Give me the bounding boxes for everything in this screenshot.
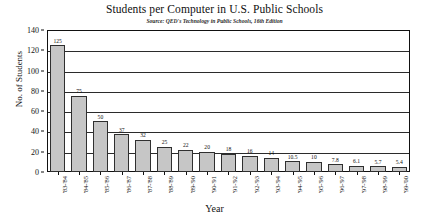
x-axis-tick-label: '85-'86: [103, 176, 110, 193]
x-axis-tick-slot: '91-'92: [218, 172, 239, 202]
gridline: [48, 72, 409, 73]
x-axis-tick-slot: '85-'86: [90, 172, 111, 202]
gridline: [48, 132, 409, 133]
x-axis-tick-slot: '90-'91: [196, 172, 217, 202]
y-axis-tick-label: 40: [31, 127, 39, 136]
x-axis-tick-label: '89-'90: [189, 176, 196, 193]
x-axis-tick-mark: [293, 172, 294, 175]
y-axis-tick-label: 60: [31, 107, 39, 116]
x-axis-tick-slot: '92-'93: [239, 172, 260, 202]
x-axis-tick-mark: [357, 172, 358, 175]
x-axis-tick-mark: [228, 172, 229, 175]
x-axis-tick-slot: '83-'84: [47, 172, 68, 202]
x-axis-tick-slot: '93-'94: [261, 172, 282, 202]
y-axis-tick-mark: [41, 30, 44, 31]
x-axis-tick-label: '93-'94: [274, 176, 281, 193]
gridline: [48, 51, 409, 52]
x-axis-tick-mark: [250, 172, 251, 175]
plot-area: [47, 30, 410, 172]
x-axis-tick-label: '83-'84: [61, 176, 68, 193]
x-axis-tick-label: '91-'92: [231, 176, 238, 193]
x-axis-tick-slot: '84-'85: [68, 172, 89, 202]
y-axis-tick-mark: [41, 90, 44, 91]
chart-subtitle-source: Source: QED's Technology in Public Schoo…: [0, 18, 429, 24]
x-axis-tick-label: '97-'98: [360, 176, 367, 193]
x-axis-tick-mark: [186, 172, 187, 175]
y-axis-tick-mark: [41, 111, 44, 112]
gridlines: [48, 31, 409, 171]
x-axis-tick-mark: [143, 172, 144, 175]
y-axis-tick-mark: [41, 70, 44, 71]
x-axis-tick-slot: '87-'88: [132, 172, 153, 202]
x-axis-tick-slot: '88-'89: [154, 172, 175, 202]
y-axis-tick-label: 120: [27, 46, 39, 55]
x-axis-title: Year: [0, 203, 429, 214]
x-axis-tick-label: '87-'88: [146, 176, 153, 193]
x-axis-tick-mark: [207, 172, 208, 175]
y-axis-tick-label: 100: [27, 66, 39, 75]
gridline: [48, 153, 409, 154]
x-axis-tick-slot: '97-'98: [346, 172, 367, 202]
x-axis-tick-label: '98-'99: [381, 176, 388, 193]
x-axis-tick-mark: [378, 172, 379, 175]
x-axis-tick-mark: [399, 172, 400, 175]
x-axis-tick-slot: '89-'90: [175, 172, 196, 202]
x-axis-tick-mark: [335, 172, 336, 175]
gridline: [48, 92, 409, 93]
x-axis-tick-mark: [271, 172, 272, 175]
x-axis-tick-mark: [164, 172, 165, 175]
x-axis-tick-slot: '94-'95: [282, 172, 303, 202]
x-axis-tick-label: '92-'93: [253, 176, 260, 193]
x-axis-tick-mark: [100, 172, 101, 175]
x-axis-tick-mark: [314, 172, 315, 175]
x-axis-tick-label: '86-'87: [125, 176, 132, 193]
chart-title: Students per Computer in U.S. Public Sch…: [0, 3, 429, 15]
x-axis-tick-slot: '98-'99: [367, 172, 388, 202]
x-axis-tick-slot: '86-'87: [111, 172, 132, 202]
x-axis-tick-label: '99-'00: [402, 176, 409, 193]
y-axis-tick-mark: [41, 151, 44, 152]
gridline: [48, 112, 409, 113]
y-axis-tick-mark: [41, 131, 44, 132]
x-axis-tick-slot: '99-'00: [389, 172, 410, 202]
y-axis-tick-label: 80: [31, 86, 39, 95]
x-axis-tick-label: '90-'91: [210, 176, 217, 193]
x-axis-tick-label: '94-'95: [296, 176, 303, 193]
bar-chart: Students per Computer in U.S. Public Sch…: [0, 0, 429, 223]
x-axis-tick-mark: [79, 172, 80, 175]
x-axis-tick-label: '96-'97: [338, 176, 345, 193]
x-axis-tick-slot: '95-'96: [303, 172, 324, 202]
y-axis-tick-mark: [41, 50, 44, 51]
y-axis-tick-labels: 020406080100120140: [0, 30, 44, 172]
x-axis-tick-mark: [122, 172, 123, 175]
x-axis-tick-labels: '83-'84'84-'85'85-'86'86-'87'87-'88'88-'…: [47, 172, 410, 202]
x-axis-tick-label: '84-'85: [82, 176, 89, 193]
y-axis-tick-mark: [41, 172, 44, 173]
x-axis-tick-mark: [58, 172, 59, 175]
y-axis-tick-label: 140: [27, 26, 39, 35]
y-axis-tick-label: 20: [31, 147, 39, 156]
x-axis-tick-slot: '96-'97: [325, 172, 346, 202]
x-axis-tick-label: '95-'96: [317, 176, 324, 193]
x-axis-tick-label: '88-'89: [167, 176, 174, 193]
y-axis-tick-label: 0: [35, 168, 39, 177]
